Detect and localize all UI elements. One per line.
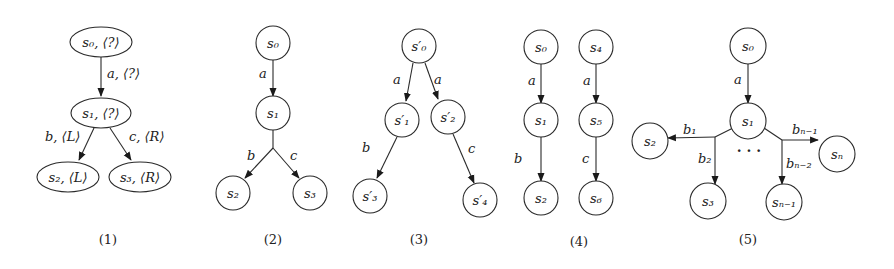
edge-s1-s2 [668, 137, 715, 138]
ellipsis: · · · [737, 143, 761, 159]
node-s1-label: s₁ [535, 113, 547, 128]
node-s4-prime-label: s′₄ [473, 193, 488, 208]
node-sn-label: sₙ [831, 147, 843, 162]
node-s1-label: s₁ [742, 114, 754, 129]
panel-3: s′₀ s′₁ s′₂ s′₃ s′₄ a a b c (3) [353, 29, 497, 247]
edge-label-bn-minus-1: bₙ₋₁ [792, 122, 818, 137]
edge-label-b2: b₂ [698, 151, 712, 166]
node-sn-minus-1-label: sₙ₋₁ [772, 195, 796, 210]
edge-label-bn-minus-2: bₙ₋₂ [786, 156, 812, 171]
panel-5: s₀ s₁ s₂ s₃ sₙ₋₁ sₙ a b₁ b₂ bₙ₋₂ bₙ₋₁ · … [632, 28, 855, 247]
node-s3-label: s₃ [304, 186, 316, 201]
edge-label-c: c [290, 148, 298, 163]
edge-label-a: a [734, 72, 742, 87]
caption-1: (1) [99, 232, 117, 247]
node-s3-prime-label: s′₃ [363, 189, 378, 204]
figure-canvas: s₀, ⟨?⟩ s₁, ⟨?⟩ s₂, ⟨L⟩ s₃, ⟨R⟩ a, ⟨?⟩ b… [0, 0, 894, 269]
edge-s1-s3 [110, 128, 131, 160]
node-s6-label: s₆ [590, 191, 602, 206]
panel-1: s₀, ⟨?⟩ s₁, ⟨?⟩ s₂, ⟨L⟩ s₃, ⟨R⟩ a, ⟨?⟩ b… [37, 27, 171, 247]
node-s4-label: s₄ [590, 40, 602, 55]
caption-2: (2) [264, 232, 282, 247]
edge-label-c: c, ⟨R⟩ [129, 129, 164, 144]
node-s0-label: s₀ [742, 39, 755, 54]
edge-s1-s3-b [377, 137, 397, 178]
panel-2: s₀ s₁ s₂ s₃ a b c (2) [216, 26, 327, 247]
edge-label-a-right: a [583, 73, 591, 88]
edge-label-b: b [247, 148, 255, 163]
node-s2-label: s₂ [227, 186, 239, 201]
node-s1-label: s₁ [267, 106, 279, 121]
node-s0-label: s₀ [535, 40, 548, 55]
node-s1-prime-label: s′₁ [395, 113, 410, 128]
edge-s1-right-junction [764, 128, 782, 140]
edge-label-b: b [362, 140, 370, 155]
edge-label-a: a, ⟨?⟩ [107, 66, 140, 81]
edge-label-c: c [468, 141, 476, 156]
node-s2-prime-label: s′₂ [441, 110, 456, 125]
node-s0-prime-label: s′₀ [412, 39, 428, 54]
edge-label-b1: b₁ [683, 122, 697, 137]
caption-5: (5) [739, 232, 757, 247]
edge-label-b: b [514, 151, 522, 166]
edge-label-a-left: a [528, 73, 536, 88]
panel-4: s₀ s₁ s₂ s₄ s₅ s₆ a b a c (4) [514, 30, 613, 249]
edge-s1-left-junction [715, 128, 733, 137]
node-s3-label: s₃, ⟨R⟩ [120, 170, 160, 185]
edge-label-a: a [259, 66, 267, 81]
node-s2-label: s₂ [535, 191, 547, 206]
edge-label-a-left: a [393, 72, 401, 87]
node-s1-label: s₁, ⟨?⟩ [82, 106, 119, 121]
node-s2-label: s₂ [644, 134, 656, 149]
edge-label-c: c [582, 151, 590, 166]
caption-3: (3) [410, 232, 428, 247]
edge-s0-s1-a [406, 63, 413, 101]
node-s2-label: s₂, ⟨L⟩ [49, 170, 88, 185]
node-s5-label: s₅ [590, 113, 603, 128]
edge-s1-s2 [79, 128, 94, 160]
node-s0-label: s₀, ⟨?⟩ [82, 35, 119, 50]
node-s3-label: s₃ [702, 194, 714, 209]
edge-label-b: b, ⟨L⟩ [45, 129, 80, 144]
node-s0-label: s₀ [267, 36, 280, 51]
caption-4: (4) [570, 234, 588, 249]
edge-label-a-right: a [434, 72, 442, 87]
